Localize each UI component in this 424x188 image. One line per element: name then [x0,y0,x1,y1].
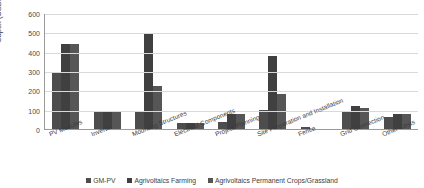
legend-swatch-icon [208,178,213,183]
y-axis-tick-label: 200 [28,88,40,95]
legend-item[interactable]: Agrivoltaics Farming [127,177,196,184]
y-axis-tick-label: 100 [28,107,40,114]
bar [144,34,153,129]
x-axis-tick-labels: PV ModulesInverterMounting StructuresEle… [44,131,418,171]
bar [70,44,79,129]
chart-legend: GM-PVAgrivoltaics FarmingAgrivoltaics Pe… [0,177,424,184]
legend-label: Agrivoltaics Farming [134,177,196,184]
gridline [45,72,418,73]
gridline [45,33,418,34]
y-axis-title: Capex (USD/kWp) [0,0,3,72]
bar [112,111,121,129]
legend-swatch-icon [127,178,132,183]
legend-item[interactable]: Agrivoltaics Permanent Crops/Grassland [208,177,338,184]
legend-label: Agrivoltaics Permanent Crops/Grassland [215,177,338,184]
legend-swatch-icon [86,178,91,183]
y-axis-tick-labels: 0100200300400500600 [14,14,42,130]
y-axis-tick-label: 500 [28,30,40,37]
y-axis-tick-label: 400 [28,49,40,56]
y-axis-tick-label: 300 [28,69,40,76]
gridline [45,14,418,15]
gridline [45,53,418,54]
legend-label: GM-PV [93,177,115,184]
y-axis-tick-label: 0 [36,127,40,134]
bar [52,72,61,129]
y-axis-tick-label: 600 [28,11,40,18]
gridline [45,91,418,92]
legend-item[interactable]: GM-PV [86,177,115,184]
bar-chart: Capex (USD/kWp) 0100200300400500600 PV M… [0,0,424,188]
bar [61,44,70,129]
